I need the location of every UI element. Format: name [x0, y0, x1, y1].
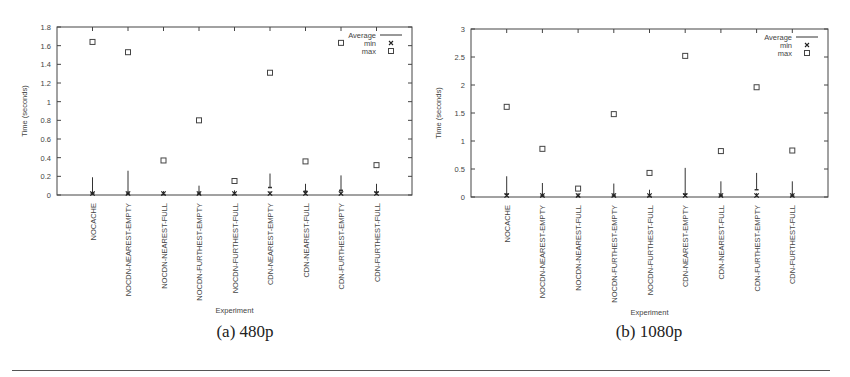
x-tick-label: NOCACHE: [89, 203, 98, 241]
max-square-marker: [161, 158, 166, 163]
chart-1080p-plot: 00.511.522.53Time (seconds)NOCACHENOCDN-…: [425, 0, 850, 320]
x-tick-label: NOCDN-NEAREST-EMPTY: [124, 203, 133, 296]
legend: Averageminmax: [348, 31, 402, 56]
y-tick-label: 0: [47, 191, 51, 200]
max-square-marker: [540, 146, 545, 151]
legend-square-icon: [389, 49, 394, 54]
x-tick-label: CDN-NEAREST-FULL: [302, 203, 311, 278]
y-tick-label: 0: [461, 193, 465, 202]
max-square-marker: [647, 170, 652, 175]
max-square-marker: [303, 159, 308, 164]
max-square-marker: [611, 112, 616, 117]
x-axis-label: Experiment: [631, 308, 670, 317]
plot-frame: [57, 27, 412, 195]
caption-480p: (a) 480p: [180, 322, 310, 342]
y-tick-label: 1.2: [41, 79, 51, 88]
max-square-marker: [683, 53, 688, 58]
max-square-marker: [197, 118, 202, 123]
x-tick-label: NOCDN-FURTHEST-FULL: [231, 203, 240, 293]
y-tick-label: 2: [461, 81, 465, 90]
y-tick-label: 1: [47, 98, 51, 107]
plot-frame: [471, 29, 828, 197]
x-tick-label: NOCDN-FURTHEST-EMPTY: [610, 205, 619, 303]
y-tick-label: 2.5: [455, 53, 465, 62]
y-tick-label: 1.4: [41, 60, 51, 69]
max-square-marker: [268, 70, 273, 75]
legend-label: max: [778, 49, 792, 58]
max-square-marker: [576, 186, 581, 191]
y-axis-label: Time (seconds): [20, 85, 29, 137]
x-tick-label: CDN-FURTHEST-FULL: [373, 203, 382, 282]
x-axis-label: Experiment: [216, 306, 255, 315]
x-tick-label: NOCDN-FURTHEST-FULL: [646, 205, 655, 295]
max-square-marker: [790, 148, 795, 153]
x-tick-label: CDN-FURTHEST-EMPTY: [337, 203, 346, 290]
x-tick-label: CDN-FURTHEST-EMPTY: [753, 205, 762, 292]
legend-x-icon: [389, 41, 393, 45]
y-tick-label: 1.8: [41, 23, 51, 32]
y-tick-label: 0.8: [41, 116, 51, 125]
x-tick-label: CDN-NEAREST-EMPTY: [266, 203, 275, 285]
y-tick-label: 0.6: [41, 135, 51, 144]
chart-480p: 00.20.40.60.811.21.41.61.8Time (seconds)…: [0, 0, 425, 320]
y-axis-label: Time (seconds): [434, 87, 443, 139]
x-tick-label: CDN-NEAREST-EMPTY: [681, 205, 690, 287]
max-square-marker: [504, 104, 509, 109]
y-tick-label: 1: [461, 137, 465, 146]
legend-x-icon: [805, 43, 809, 47]
chart-1080p: 00.511.522.53Time (seconds)NOCACHENOCDN-…: [425, 0, 850, 320]
legend-label: max: [362, 47, 376, 56]
figure-bottom-rule: [12, 370, 830, 371]
caption-1080p: (b) 1080p: [584, 322, 714, 342]
max-square-marker: [339, 40, 344, 45]
max-square-marker: [126, 50, 131, 55]
chart-480p-plot: 00.20.40.60.811.21.41.61.8Time (seconds)…: [0, 0, 425, 320]
x-tick-label: NOCDN-FURTHEST-EMPTY: [195, 203, 204, 301]
x-tick-label: NOCDN-NEAREST-FULL: [574, 205, 583, 291]
y-tick-label: 1.6: [41, 42, 51, 51]
x-tick-label: NOCACHE: [503, 205, 512, 243]
y-tick-label: 0.2: [41, 172, 51, 181]
y-tick-label: 3: [461, 25, 465, 34]
x-tick-label: CDN-NEAREST-FULL: [717, 205, 726, 280]
max-square-marker: [90, 39, 95, 44]
y-tick-label: 1.5: [455, 109, 465, 118]
legend: Averageminmax: [764, 33, 818, 58]
y-tick-label: 0.5: [455, 165, 465, 174]
max-square-marker: [718, 149, 723, 154]
max-square-marker: [374, 163, 379, 168]
max-square-marker: [754, 85, 759, 90]
max-square-marker: [232, 179, 237, 184]
x-tick-label: NOCDN-NEAREST-FULL: [160, 203, 169, 289]
y-tick-label: 0.4: [41, 154, 51, 163]
legend-square-icon: [805, 51, 810, 56]
x-tick-label: NOCDN-NEAREST-EMPTY: [538, 205, 547, 298]
x-tick-label: CDN-FURTHEST-FULL: [788, 205, 797, 284]
